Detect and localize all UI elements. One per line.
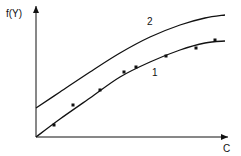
data-point-marker (165, 55, 168, 58)
data-point-marker (53, 124, 56, 127)
chart: f(Y) C 2 1 (0, 0, 241, 156)
x-axis-label: C (223, 143, 230, 154)
curve-1-label: 1 (152, 67, 158, 78)
data-point-marker (195, 47, 198, 50)
data-point-marker (214, 39, 217, 42)
plot-area: f(Y) C 2 1 (0, 0, 241, 156)
curve-2-label: 2 (147, 16, 153, 27)
data-point-marker (99, 89, 102, 92)
y-axis-label: f(Y) (6, 8, 22, 19)
curve-2 (36, 15, 225, 108)
series-group (36, 15, 225, 137)
data-point-marker (135, 66, 138, 69)
data-point-marker (72, 104, 75, 107)
data-point-marker (123, 71, 126, 74)
